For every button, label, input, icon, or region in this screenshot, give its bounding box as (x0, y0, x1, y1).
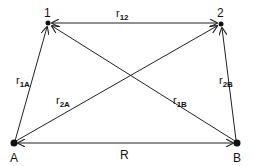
label-point-1: 1 (44, 6, 51, 20)
label-point-2: 2 (217, 6, 224, 20)
point-2 (219, 22, 224, 27)
point-1 (46, 21, 51, 26)
label-r1A: r1A (16, 74, 30, 89)
label-point-B: B (233, 151, 241, 165)
point-A (11, 140, 18, 147)
edge-r1B (52, 26, 235, 141)
point-B (234, 140, 241, 147)
label-R: R (120, 148, 129, 162)
label-r1B: r1B (173, 94, 187, 109)
label-point-A: A (10, 151, 18, 165)
edge-r2A (16, 26, 217, 141)
label-r2B: r2B (219, 74, 233, 89)
label-r2A: r2A (56, 94, 70, 109)
distance-diagram: 1 2 A B r12 r1A r2A r1B r2B R (0, 0, 253, 166)
label-r12: r12 (116, 7, 129, 22)
